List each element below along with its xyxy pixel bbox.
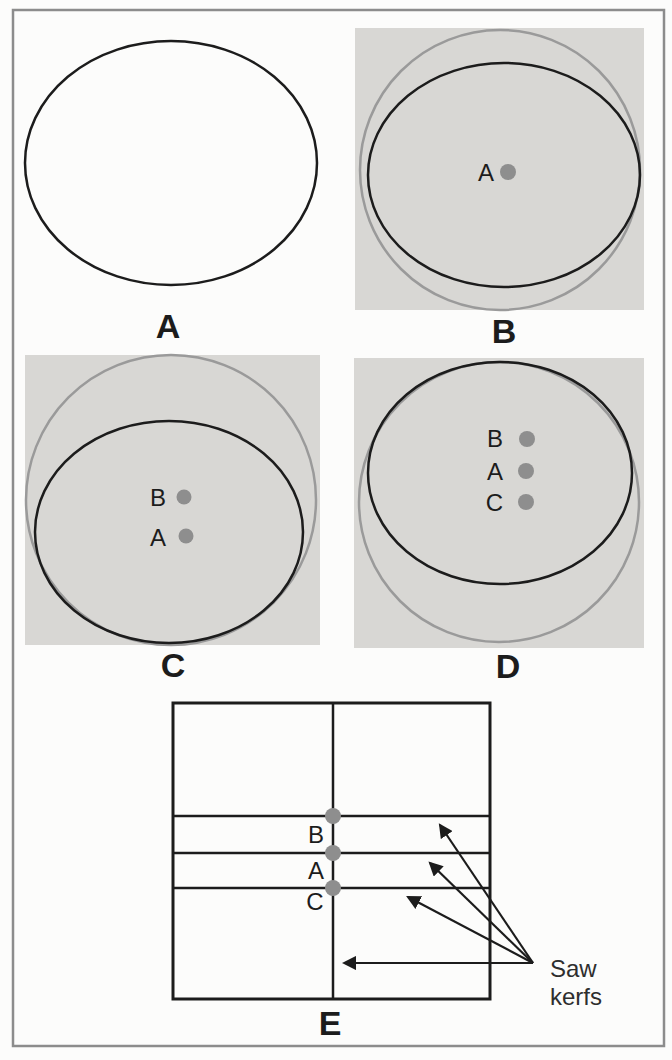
pith-dot-b	[519, 431, 535, 447]
log-sawing-figure: A A B B A C B A C D	[0, 0, 672, 1060]
pith-label-a: A	[487, 458, 503, 485]
pith-dot-c	[325, 880, 341, 896]
pith-label-a: A	[478, 159, 494, 186]
pith-dot-b	[177, 490, 192, 505]
panel-d: B A C D	[354, 358, 644, 685]
pith-dot-b	[325, 808, 341, 824]
pith-dot-a	[500, 164, 516, 180]
pith-label-b: B	[487, 425, 503, 452]
saw-kerf-arrow-2	[430, 863, 533, 963]
panel-b-label: B	[492, 312, 517, 350]
panel-e-label: E	[319, 1004, 342, 1042]
saw-kerf-arrow-1	[440, 825, 533, 963]
pith-dot-a	[179, 529, 194, 544]
pith-label-a: A	[308, 857, 324, 884]
panel-c: B A C	[25, 355, 320, 684]
pith-label-c: C	[486, 489, 503, 516]
saw-kerf-arrow-3	[408, 897, 533, 963]
pith-dot-a	[325, 845, 341, 861]
pith-dot-a	[518, 463, 534, 479]
pith-dot-c	[518, 494, 534, 510]
panel-c-label: C	[161, 646, 186, 684]
panel-a: A	[25, 41, 317, 345]
pith-label-c: C	[306, 888, 323, 915]
log-outline-ellipse-a	[25, 41, 317, 285]
panel-e: B A C Saw kerfs E	[173, 703, 602, 1042]
saw-kerfs-annotation-line2: kerfs	[550, 983, 602, 1010]
panel-b: A B	[355, 28, 644, 350]
pith-label-b: B	[150, 484, 166, 511]
saw-kerfs-annotation-line1: Saw	[550, 955, 597, 982]
figure-canvas: A A B B A C B A C D	[0, 0, 672, 1060]
pith-label-a: A	[150, 524, 166, 551]
panel-d-label: D	[496, 647, 521, 685]
pith-label-b: B	[308, 821, 324, 848]
panel-a-label: A	[156, 307, 181, 345]
